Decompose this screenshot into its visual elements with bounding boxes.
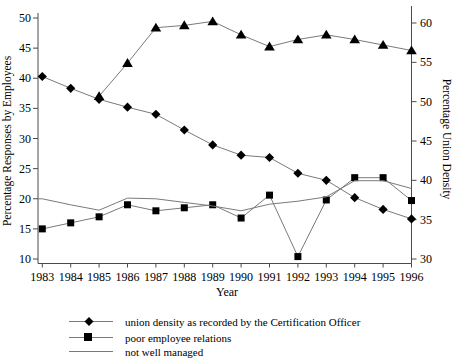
x-tick-label: 1986 [116, 270, 140, 284]
triangle-marker-icon [236, 30, 247, 39]
x-tick-label: 1994 [343, 270, 367, 284]
diamond-marker-icon [208, 140, 217, 149]
square-marker-icon [408, 197, 415, 204]
x-tick-label: 1996 [400, 270, 424, 284]
square-marker-icon [152, 207, 159, 214]
right-tick-label: 35 [420, 213, 432, 227]
square-marker-icon [84, 333, 92, 341]
triangle-marker-icon [122, 58, 133, 67]
x-axis-ticks: 1983198419851986198719881989199019911992… [30, 264, 423, 284]
x-tick-label: 1984 [59, 270, 83, 284]
x-tick-label: 1988 [172, 270, 196, 284]
legend-label-not-well-managed: not well managed [125, 346, 204, 358]
right-tick-label: 40 [420, 173, 432, 187]
chart-page: { "figure": { "background": "#ffffff", "… [0, 0, 457, 364]
x-axis-title: Year [216, 285, 238, 299]
diamond-marker-icon [151, 110, 160, 119]
series-markers-triangle-series [94, 16, 417, 100]
square-marker-icon [124, 201, 131, 208]
legend-item-poor-employee-relations: poor employee relations [69, 332, 231, 344]
square-marker-icon [67, 219, 74, 226]
line-chart: 1015202530354045503035404550556019831984… [0, 0, 457, 364]
right-tick-label: 50 [420, 95, 432, 109]
right-tick-label: 45 [420, 134, 432, 148]
x-tick-label: 1989 [201, 270, 225, 284]
square-marker-icon [181, 204, 188, 211]
square-marker-icon [96, 213, 103, 220]
diamond-marker-icon [180, 125, 189, 134]
left-tick-label: 15 [19, 222, 31, 236]
legend-label-poor-employee-relations: poor employee relations [125, 332, 231, 344]
left-axis-title: Percentage Responses by Employees [1, 55, 14, 226]
axes [38, 6, 412, 264]
diamond-marker-icon [265, 153, 274, 162]
square-marker-icon [209, 201, 216, 208]
x-tick-label: 1993 [314, 270, 338, 284]
x-tick-label: 1991 [258, 270, 282, 284]
x-tick-label: 1995 [371, 270, 395, 284]
left-tick-label: 10 [19, 252, 31, 266]
diamond-marker-icon [237, 151, 246, 160]
left-tick-label: 50 [19, 11, 31, 25]
right-axis-title: Percentage Union Density [440, 79, 453, 200]
left-tick-label: 25 [19, 162, 31, 176]
left-tick-label: 40 [19, 71, 31, 85]
square-marker-icon [238, 215, 245, 222]
diamond-marker-icon [123, 103, 132, 112]
diamond-marker-icon [66, 84, 75, 93]
right-tick-label: 30 [420, 252, 432, 266]
left-tick-label: 45 [19, 41, 31, 55]
diamond-marker-icon [38, 72, 47, 81]
diamond-marker-icon [407, 214, 416, 223]
legend-label-union-density: union density as recorded by the Certifi… [125, 316, 361, 328]
triangle-marker-icon [321, 30, 332, 39]
x-tick-label: 1987 [144, 270, 168, 284]
square-marker-icon [266, 192, 273, 199]
diamond-marker-icon [350, 193, 359, 202]
square-marker-icon [380, 174, 387, 181]
diamond-marker-icon [85, 317, 94, 326]
square-marker-icon [351, 174, 358, 181]
legend: union density as recorded by the Certifi… [69, 316, 361, 358]
x-tick-label: 1983 [30, 270, 54, 284]
left-axis-ticks: 101520253035404550 [19, 11, 38, 266]
triangle-marker-icon [207, 16, 218, 25]
left-tick-label: 35 [19, 101, 31, 115]
x-tick-label: 1990 [229, 270, 253, 284]
x-tick-label: 1992 [286, 270, 310, 284]
plot-area: 1015202530354045503035404550556019831984… [19, 6, 432, 284]
series-line-triangle-series [99, 21, 411, 96]
diamond-marker-icon [293, 169, 302, 178]
legend-item-union-density: union density as recorded by the Certifi… [69, 316, 361, 328]
series-markers-union-density [38, 72, 416, 224]
legend-item-not-well-managed: not well managed [69, 346, 204, 358]
right-tick-label: 55 [420, 55, 432, 69]
right-tick-label: 60 [420, 16, 432, 30]
diamond-marker-icon [379, 205, 388, 214]
x-tick-label: 1985 [87, 270, 111, 284]
diamond-marker-icon [322, 176, 331, 185]
left-tick-label: 20 [19, 192, 31, 206]
square-marker-icon [294, 253, 301, 260]
left-tick-label: 30 [19, 132, 31, 146]
square-marker-icon [39, 225, 46, 232]
